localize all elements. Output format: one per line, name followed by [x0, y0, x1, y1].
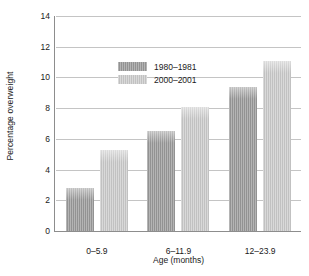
- y-tick-label: 0: [45, 226, 50, 236]
- y-axis-title-text: Percentage overweight: [5, 71, 15, 160]
- legend-label: 2000–2001: [154, 75, 197, 85]
- y-tick-label: 2: [45, 195, 50, 205]
- legend-swatch: [118, 75, 147, 84]
- bar-chart: Percentage overweight 02468101214 0–5.96…: [0, 0, 309, 276]
- legend-item: 1980–1981: [118, 61, 197, 72]
- bar-1980-1981-6-11.9: [147, 131, 175, 231]
- bar-2000-2001-12-23.9: [263, 61, 291, 231]
- y-axis-line: [54, 16, 55, 231]
- y-tick-label: 4: [45, 165, 50, 175]
- plot-area: 02468101214 0–5.96–11.912–23.9 1980–1981…: [56, 10, 301, 231]
- legend-swatch: [118, 62, 147, 71]
- y-tick-label: 12: [41, 42, 50, 52]
- y-tick-label: 6: [45, 134, 50, 144]
- y-tick-label: 14: [41, 11, 50, 21]
- bar-group: [138, 10, 220, 231]
- y-tick-label: 8: [45, 103, 50, 113]
- x-axis-title: Age (months): [56, 255, 301, 265]
- bar-1980-1981-0-5.9: [66, 188, 94, 231]
- bar-2000-2001-6-11.9: [181, 107, 209, 231]
- legend-label: 1980–1981: [154, 62, 197, 72]
- bar-group: [56, 10, 138, 231]
- legend: 1980–19812000–2001: [118, 61, 197, 87]
- x-axis-line: [54, 231, 301, 232]
- bar-2000-2001-0-5.9: [100, 150, 128, 231]
- y-tick-label: 10: [41, 72, 50, 82]
- x-axis-title-text: Age (months): [153, 255, 204, 265]
- bar-1980-1981-12-23.9: [229, 87, 257, 231]
- bars-layer: [56, 10, 301, 231]
- y-axis-title: Percentage overweight: [0, 0, 20, 231]
- bar-group: [219, 10, 301, 231]
- legend-item: 2000–2001: [118, 74, 197, 85]
